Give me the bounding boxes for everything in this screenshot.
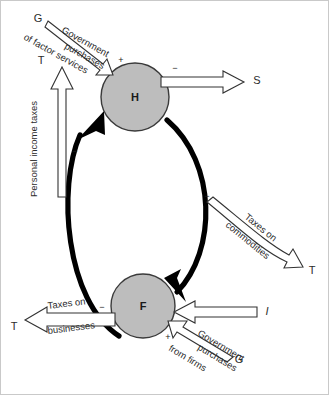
diagram-canvas: H F G + Government purchases of factor s… — [1, 1, 329, 395]
endpoint-t-business: T — [11, 320, 18, 332]
sign-taxes-commodities: − — [204, 191, 209, 201]
endpoint-g-factor: G — [34, 12, 43, 24]
endpoint-s-saving: S — [253, 74, 260, 86]
flow-taxes-on-businesses[interactable]: T − Taxes on businesses — [11, 295, 115, 336]
sign-income-tax: − — [72, 146, 77, 156]
flow-taxes-on-commodities[interactable]: T − Taxes on commodities — [204, 191, 315, 276]
sign-taxes-businesses: − — [99, 302, 104, 312]
node-firms[interactable]: F — [111, 274, 175, 338]
sign-gov-factor: + — [118, 55, 123, 65]
flow-investment[interactable]: I + — [170, 301, 268, 329]
sign-gov-firms: + — [165, 332, 170, 342]
taxes-commodities-arrow-shaft — [207, 197, 303, 268]
endpoint-t-income: T — [38, 54, 45, 66]
saving-arrow-shaft — [161, 71, 244, 93]
flow-government-purchases-factor-services[interactable]: G + Government purchases of factor servi… — [22, 12, 124, 76]
endpoint-i-investment: I — [265, 305, 268, 317]
investment-arrow-shaft — [174, 301, 257, 323]
income-tax-label: Personal income taxes — [28, 101, 39, 197]
flow-government-purchases-from-firms[interactable]: G + Government purchases from firms — [165, 321, 246, 374]
endpoint-t-commodities: T — [309, 264, 316, 276]
firms-label: F — [140, 300, 147, 312]
taxes-businesses-line1: Taxes on — [47, 295, 86, 311]
gov-factor-label: Government purchases of factor services — [22, 24, 111, 76]
households-label: H — [131, 91, 139, 103]
circular-flow-figure: H F G + Government purchases of factor s… — [0, 0, 329, 395]
flow-saving[interactable]: S − — [161, 63, 261, 93]
flow-arc-right — [164, 120, 206, 302]
sign-saving: − — [172, 63, 177, 73]
